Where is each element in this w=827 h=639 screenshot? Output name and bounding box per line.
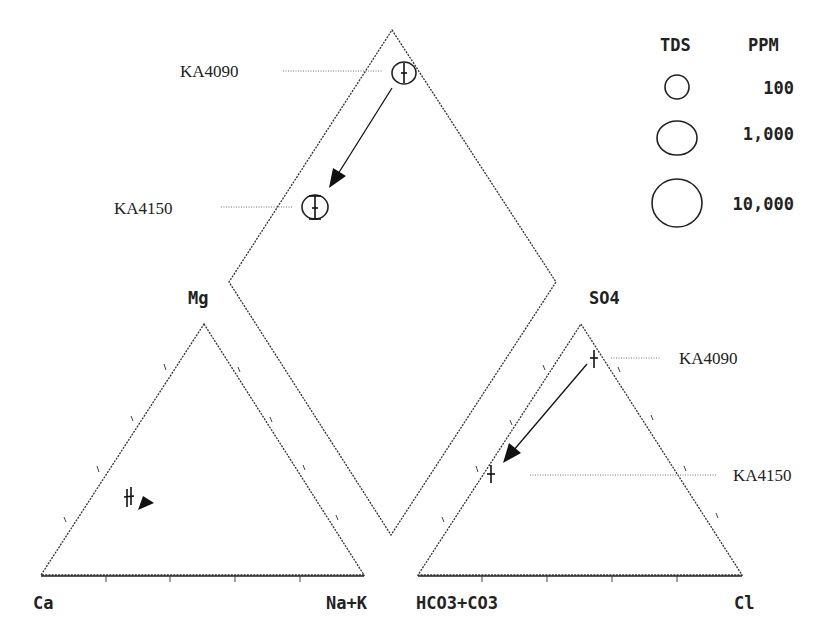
legend-header-tds: TDS <box>660 35 691 55</box>
legend-header-ppm: PPM <box>748 35 779 55</box>
diamond-sample-ka4090: KA4090 <box>180 62 416 84</box>
cation-triangle <box>41 324 364 582</box>
diamond-sample-ka4150: KA4150 <box>114 195 328 219</box>
label-so4: SO4 <box>589 288 620 308</box>
label-hco3-co3: HCO3+CO3 <box>416 593 498 613</box>
legend-bubble-1000 <box>657 121 697 155</box>
diamond-label-ka4090: KA4090 <box>180 62 239 81</box>
legend-bubble-100 <box>665 75 689 99</box>
cation-samples <box>124 487 154 510</box>
label-mg: Mg <box>188 288 208 308</box>
legend-value-100: 100 <box>763 78 794 98</box>
tds-legend: TDS PPM 100 1,000 10,000 <box>652 35 794 227</box>
legend-value-1000: 1,000 <box>743 124 794 144</box>
anion-sample-ka4150: KA4150 <box>487 465 792 485</box>
anion-label-ka4150: KA4150 <box>733 466 792 485</box>
diamond-label-ka4150: KA4150 <box>114 199 173 218</box>
diamond-trend-arrow <box>329 88 392 188</box>
label-ca: Ca <box>33 593 53 613</box>
label-nak: Na+K <box>326 593 368 613</box>
anion-label-ka4090: KA4090 <box>679 349 738 368</box>
legend-bubble-10000 <box>652 179 702 227</box>
anion-sample-ka4090: KA4090 <box>590 349 738 368</box>
label-cl: Cl <box>734 593 754 613</box>
piper-diagram: Mg Ca Na+K SO4 HCO3+CO3 Cl TDS PPM 100 1… <box>0 0 827 639</box>
legend-value-10000: 10,000 <box>733 194 794 214</box>
cation-trend-arrow <box>138 496 154 510</box>
